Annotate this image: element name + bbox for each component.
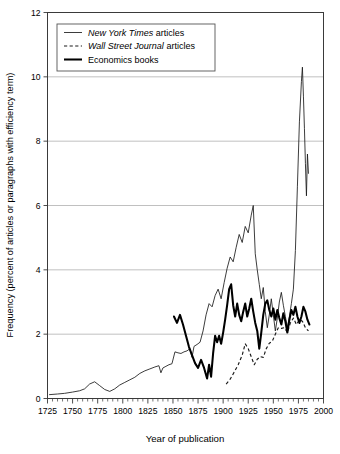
x-tick-label-2000: 2000 — [314, 406, 333, 416]
x-tick-label-1800: 1800 — [113, 406, 132, 416]
x-tick-label-1825: 1825 — [138, 406, 157, 416]
series-line-new-york-times-articles — [50, 67, 309, 394]
y-tick-label-10: 10 — [31, 72, 41, 82]
legend-label-plain-0: articles — [153, 28, 185, 38]
y-tick-label-6: 6 — [36, 201, 41, 211]
x-tick-label-1925: 1925 — [239, 406, 258, 416]
x-tick-label-1900: 1900 — [214, 406, 233, 416]
x-axis-title: Year of publication — [146, 433, 225, 444]
x-tick-label-1850: 1850 — [163, 406, 182, 416]
legend-label-1: Wall Street Journal articles — [88, 41, 195, 51]
legend-label-plain-2: Economics books — [88, 55, 159, 65]
y-tick-label-2: 2 — [36, 329, 41, 339]
x-tick-label-1775: 1775 — [88, 406, 107, 416]
y-axis-ticks — [44, 13, 48, 399]
y-tick-label-0: 0 — [36, 394, 41, 404]
legend-label-plain-1: articles — [164, 41, 196, 51]
legend-label-0: New York Times articles — [88, 28, 185, 38]
chart-legend: New York Times articlesWall Street Journ… — [57, 24, 215, 71]
legend-label-italic-1: Wall Street Journal — [88, 41, 165, 51]
efficiency-frequency-line-chart: 1725175017751800182518501875190019251950… — [0, 0, 340, 454]
series-line-economics-books — [174, 284, 309, 378]
chart-container: 1725175017751800182518501875190019251950… — [0, 0, 340, 454]
y-tick-label-8: 8 — [36, 136, 41, 146]
x-tick-label-1750: 1750 — [63, 406, 82, 416]
y-tick-label-4: 4 — [36, 265, 41, 275]
x-axis-major-ticks — [48, 399, 324, 404]
data-series-layer — [50, 67, 310, 394]
y-axis-title: Frequency (percent of articles or paragr… — [5, 73, 15, 338]
x-tick-label-1725: 1725 — [38, 406, 57, 416]
x-tick-label-1875: 1875 — [188, 406, 207, 416]
x-tick-label-1950: 1950 — [264, 406, 283, 416]
legend-label-2: Economics books — [88, 55, 159, 65]
y-axis-tick-labels: 024681012 — [31, 8, 41, 404]
legend-label-italic-0: New York Times — [88, 28, 154, 38]
y-tick-label-12: 12 — [31, 8, 41, 18]
x-tick-label-1975: 1975 — [289, 406, 308, 416]
x-axis-tick-labels: 1725175017751800182518501875190019251950… — [38, 406, 333, 416]
